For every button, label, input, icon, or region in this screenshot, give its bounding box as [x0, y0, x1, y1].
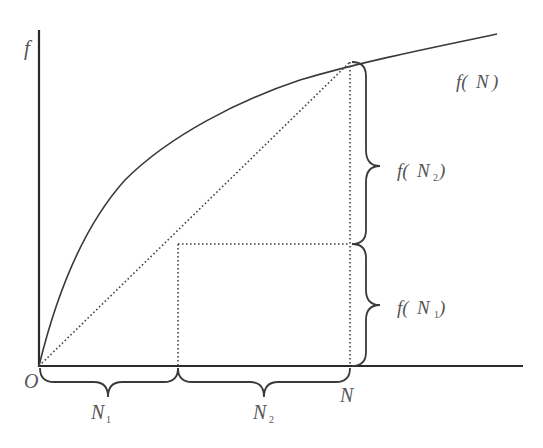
- fn1-label: f( N 1 ): [397, 297, 445, 320]
- brace-fn1: [352, 244, 380, 366]
- brace-n1: [40, 368, 178, 397]
- n-label: N: [339, 384, 355, 406]
- curve-label-n: N: [475, 71, 490, 92]
- n1-label: N 1: [90, 401, 111, 425]
- curve-label-close: ): [491, 71, 498, 93]
- fn1-label-prefix: f(: [397, 297, 410, 319]
- fn1-label-n: N: [416, 297, 431, 318]
- brace-fn2: [352, 62, 380, 244]
- n2-label: N 2: [252, 401, 274, 425]
- fn2-label: f( N 2 ): [397, 160, 445, 183]
- diagram-canvas: f O f( N ) f( N 2 ) f( N 1 ) N 1 N 2 N: [0, 0, 543, 448]
- curve-label: f( N ): [456, 71, 498, 93]
- fn2-label-sub: 2: [433, 172, 438, 183]
- fn2-label-n: N: [416, 160, 431, 181]
- fn2-label-close: ): [438, 160, 445, 182]
- n2-label-main: N: [252, 401, 268, 423]
- origin-label: O: [24, 370, 38, 392]
- n1-label-sub: 1: [106, 414, 111, 425]
- n2-label-sub: 2: [269, 414, 274, 425]
- brace-n2: [178, 368, 350, 397]
- y-axis-label: f: [24, 36, 33, 60]
- fn1-label-close: ): [438, 297, 445, 319]
- n1-label-main: N: [90, 401, 106, 423]
- fn2-label-prefix: f(: [397, 160, 410, 182]
- curve-label-f: f(: [456, 71, 469, 93]
- chord-line: [39, 62, 350, 366]
